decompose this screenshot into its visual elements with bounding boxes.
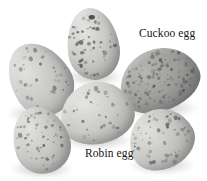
label-robin-egg: Robin egg	[85, 148, 134, 160]
label-cuckoo-egg: Cuckoo egg	[139, 28, 195, 40]
egg-photograph: Cuckoo eggRobin egg	[0, 0, 207, 181]
